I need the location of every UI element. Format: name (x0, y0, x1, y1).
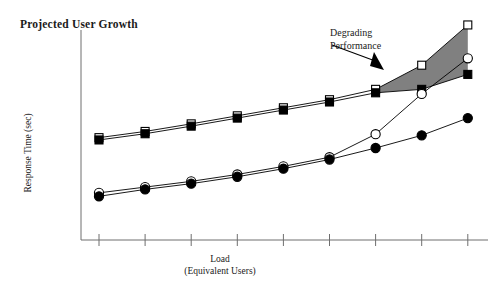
data-point-filled-circle (279, 164, 288, 173)
data-point-filled-circle (463, 114, 472, 123)
data-point-filled-circle (417, 131, 426, 140)
data-point-filled-circle (233, 172, 242, 181)
data-point-filled-square (279, 106, 287, 114)
data-point-open-square (464, 21, 472, 29)
data-point-filled-circle (325, 155, 334, 164)
data-point-filled-square (326, 98, 334, 106)
data-point-open-circle (417, 89, 426, 98)
data-point-open-circle (463, 54, 472, 63)
arrow-leader-line (332, 45, 378, 62)
data-point-filled-circle (141, 185, 150, 194)
data-point-filled-circle (371, 143, 380, 152)
data-point-open-square (418, 61, 426, 69)
degrading-performance-region (376, 25, 468, 93)
data-point-filled-circle (187, 179, 196, 188)
data-point-filled-square (141, 130, 149, 138)
shaded-region-group (376, 25, 468, 93)
data-point-filled-square (95, 136, 103, 144)
data-point-filled-circle (94, 192, 103, 201)
chart-figure: Projected User Growth Response Time (sec… (0, 0, 495, 292)
annotation-arrow-group (332, 45, 384, 70)
data-point-filled-square (233, 114, 241, 122)
data-point-open-circle (371, 130, 380, 139)
data-point-filled-square (464, 70, 472, 78)
plot-area (0, 0, 495, 292)
data-point-filled-square (372, 89, 380, 97)
degrading-performance-arrow-icon (370, 52, 384, 70)
series-markers-group (94, 21, 472, 201)
data-point-filled-square (187, 122, 195, 130)
